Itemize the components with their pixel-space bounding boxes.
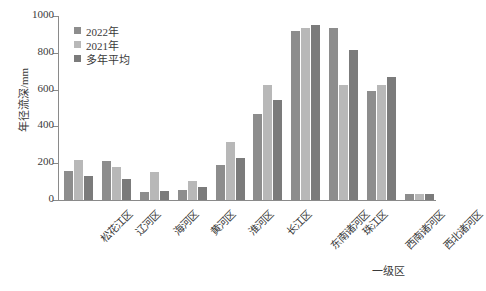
- x-axis-tick-label: 海河区: [169, 206, 201, 238]
- bar: [150, 172, 159, 200]
- bar: [140, 192, 149, 200]
- legend-item: 2022年: [74, 24, 130, 37]
- x-axis-tick-label: 辽河区: [131, 206, 163, 238]
- y-axis-line: [58, 16, 59, 201]
- bar-group: [291, 16, 320, 200]
- x-axis-line: [58, 200, 436, 201]
- legend-item-label: 多年平均: [86, 51, 130, 67]
- bar: [188, 181, 197, 200]
- y-axis-tick-label: 400: [38, 118, 55, 130]
- x-axis-tick-label: 松花江区: [97, 206, 136, 245]
- y-axis-tick-label: 600: [38, 82, 55, 94]
- bar: [291, 31, 300, 200]
- bar: [178, 190, 187, 200]
- x-axis-title: 一级区: [372, 262, 405, 278]
- y-axis-title: 年径流深/mm: [15, 35, 31, 165]
- legend-swatch-icon: [74, 55, 81, 62]
- x-axis-tick-label: 西南诸河区: [402, 206, 448, 252]
- bar: [122, 179, 131, 200]
- bar-group: [367, 16, 396, 200]
- bar: [74, 160, 83, 200]
- bar: [84, 176, 93, 200]
- bar: [349, 50, 358, 200]
- legend-item: 多年平均: [74, 52, 130, 65]
- chart-legend: 2022年2021年多年平均: [74, 24, 130, 66]
- x-axis-tick-label: 黄河区: [207, 206, 239, 238]
- bar-group: [329, 16, 358, 200]
- y-axis-tick-label: 1000: [32, 8, 54, 20]
- bar: [329, 28, 338, 200]
- bar-group: [140, 16, 169, 200]
- legend-swatch-icon: [74, 27, 81, 34]
- bar: [301, 28, 310, 200]
- bar: [377, 85, 386, 200]
- legend-item: 2021年: [74, 38, 130, 51]
- bar-group: [253, 16, 282, 200]
- bar: [226, 142, 235, 200]
- y-axis-tick-label: 800: [38, 45, 55, 57]
- bar: [387, 77, 396, 200]
- bar: [339, 85, 348, 200]
- x-axis-tick-label: 长江区: [283, 206, 315, 238]
- bar-group: [178, 16, 207, 200]
- bar: [160, 191, 169, 200]
- bar: [253, 114, 262, 200]
- bar: [216, 165, 225, 200]
- bar: [367, 91, 376, 200]
- bar: [425, 194, 434, 200]
- x-axis-tick-label: 淮河区: [245, 206, 277, 238]
- bar: [64, 171, 73, 200]
- bar: [311, 25, 320, 200]
- legend-swatch-icon: [74, 41, 81, 48]
- y-axis-tick-label: 200: [38, 155, 55, 167]
- bar: [102, 161, 111, 200]
- x-axis-tick-label: 西北诸河区: [440, 206, 486, 252]
- bar-group: [216, 16, 245, 200]
- bar: [273, 100, 282, 200]
- bar: [198, 187, 207, 200]
- bar: [405, 194, 414, 200]
- bar: [112, 167, 121, 200]
- bar: [263, 85, 272, 200]
- bar: [415, 194, 424, 200]
- bar-group: [405, 16, 434, 200]
- y-axis-tick-label: 0: [49, 192, 55, 204]
- bar: [236, 158, 245, 200]
